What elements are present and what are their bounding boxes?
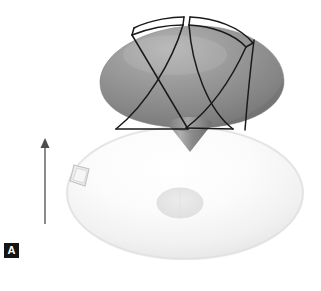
right-wedge-edge-left	[189, 17, 190, 25]
diagram-canvas	[0, 0, 321, 291]
figure-panel: A	[0, 0, 321, 291]
panel-label-badge: A	[4, 243, 19, 258]
upper-ellipsoid-group	[100, 26, 284, 128]
left-wedge-edge-right	[183, 17, 184, 25]
upper-ellipsoid-highlight	[123, 35, 227, 75]
arrow-head	[41, 138, 50, 148]
lower-ellipsoid-group	[67, 127, 303, 259]
left-wedge-arc-outer	[134, 17, 184, 28]
right-cone-base	[186, 128, 233, 129]
vertical-up-arrow	[41, 138, 50, 224]
